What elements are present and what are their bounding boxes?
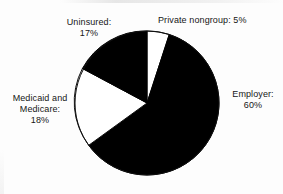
slice-label-employer: Employer: 60% <box>224 89 282 111</box>
slice-label-medicaid-name-line1: Medicaid and <box>2 93 78 104</box>
slice-label-employer-name: Employer: <box>224 89 282 100</box>
slice-label-medicaid-value: 18% <box>2 115 78 126</box>
slice-label-uninsured: Uninsured: 17% <box>53 17 125 39</box>
slice-label-medicaid-name-line2: Medicare: <box>2 104 78 115</box>
slice-label-private-nongroup-text: Private nongroup: 5% <box>158 15 247 26</box>
slice-label-employer-value: 60% <box>224 100 282 111</box>
slice-label-medicaid-medicare: Medicaid and Medicare: 18% <box>2 93 78 126</box>
slice-label-uninsured-name: Uninsured: <box>53 17 125 28</box>
slice-label-uninsured-value: 17% <box>53 28 125 39</box>
slice-label-private-nongroup: Private nongroup: 5% <box>158 15 247 26</box>
pie-chart-figure: Private nongroup: 5% Uninsured: 17% Medi… <box>0 0 283 194</box>
